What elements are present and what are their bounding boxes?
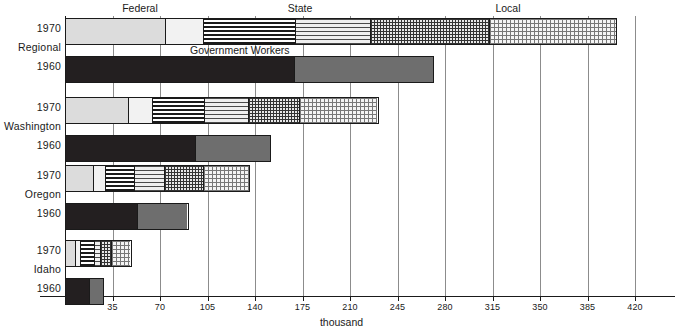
bar-segment <box>165 19 203 44</box>
tick-label-385: 385 <box>580 302 596 312</box>
bar-segment <box>370 19 489 44</box>
group-label-regional: Regional <box>18 41 61 53</box>
row-label-idaho-1960: 1960 <box>37 282 61 294</box>
bar-segment <box>66 19 165 44</box>
tick-mark-105 <box>208 297 209 301</box>
bar-segment <box>66 241 75 266</box>
bar-segment <box>203 166 249 191</box>
tick-label-420: 420 <box>627 302 643 312</box>
x-axis-title: thousand <box>0 316 683 328</box>
tick-label-245: 245 <box>390 302 406 312</box>
tick-mark-280 <box>445 297 446 301</box>
category-header-federal: Federal <box>122 2 158 14</box>
row-label-washington-1970: 1970 <box>37 101 61 113</box>
tick-label-70: 70 <box>155 302 165 312</box>
bar-idaho-1970 <box>65 240 132 267</box>
bar-segment <box>128 98 152 123</box>
tick-mark-140 <box>255 297 256 301</box>
bar-regional-1960 <box>65 56 434 83</box>
gridline-350 <box>540 16 541 296</box>
bar-segment <box>134 166 164 191</box>
row-label-regional-1970: 1970 <box>37 22 61 34</box>
tick-mark-70 <box>160 297 161 301</box>
bar-segment <box>164 166 203 191</box>
tick-mark-210 <box>350 297 351 301</box>
category-header-state: State <box>288 2 313 14</box>
bar-segment <box>66 166 93 191</box>
row-label-washington-1960: 1960 <box>37 139 61 151</box>
row-label-regional-1960: 1960 <box>37 60 61 72</box>
bar-segment <box>80 241 93 266</box>
bar-segment <box>195 136 270 161</box>
bar-idaho-1960 <box>65 278 104 305</box>
bar-segment <box>137 204 188 229</box>
row-label-idaho-1970: 1970 <box>37 244 61 256</box>
bar-oregon-1960 <box>65 203 189 230</box>
row-label-oregon-1970: 1970 <box>37 169 61 181</box>
bar-segment <box>152 98 203 123</box>
bar-washington-1960 <box>65 135 271 162</box>
annotation-government-workers: Government Workers <box>190 44 290 56</box>
bar-segment <box>489 19 616 44</box>
group-label-oregon: Oregon <box>25 188 61 200</box>
x-axis-line <box>40 296 675 297</box>
gridline-385 <box>588 16 589 296</box>
bar-segment <box>295 19 371 44</box>
tick-mark-175 <box>303 297 304 301</box>
bar-segment <box>299 98 377 123</box>
bar-segment <box>203 19 295 44</box>
bar-segment <box>100 241 111 266</box>
bar-segment <box>93 166 105 191</box>
group-label-washington: Washington <box>4 120 61 132</box>
bar-segment <box>66 57 294 82</box>
bar-oregon-1970 <box>65 165 250 192</box>
bar-segment <box>111 241 131 266</box>
bar-segment <box>66 204 137 229</box>
tick-label-210: 210 <box>342 302 358 312</box>
tick-mark-385 <box>588 297 589 301</box>
bar-segment <box>204 98 249 123</box>
bar-segment <box>66 136 195 161</box>
tick-label-350: 350 <box>532 302 548 312</box>
bar-segment <box>248 98 299 123</box>
tick-label-105: 105 <box>200 302 216 312</box>
bar-segment <box>105 166 135 191</box>
stacked-bar-chart: Federal State Local 35701051401752102452… <box>0 0 683 335</box>
tick-mark-350 <box>540 297 541 301</box>
group-label-idaho: Idaho <box>34 263 61 275</box>
bar-segment <box>294 57 433 82</box>
tick-label-175: 175 <box>295 302 311 312</box>
tick-label-315: 315 <box>485 302 501 312</box>
gridline-420 <box>635 16 636 296</box>
tick-mark-420 <box>635 297 636 301</box>
gridline-280 <box>445 16 446 296</box>
bar-washington-1970 <box>65 97 379 124</box>
row-label-oregon-1960: 1960 <box>37 207 61 219</box>
bar-segment <box>89 279 103 304</box>
bar-segment <box>66 279 89 304</box>
tick-label-140: 140 <box>247 302 263 312</box>
tick-mark-35 <box>113 297 114 301</box>
bar-segment <box>94 241 101 266</box>
gridline-315 <box>493 16 494 296</box>
tick-mark-245 <box>398 297 399 301</box>
tick-label-280: 280 <box>437 302 453 312</box>
bar-regional-1970 <box>65 18 617 45</box>
category-header-local: Local <box>495 2 520 14</box>
tick-mark-315 <box>493 297 494 301</box>
tick-label-35: 35 <box>107 302 117 312</box>
bar-segment <box>66 98 128 123</box>
